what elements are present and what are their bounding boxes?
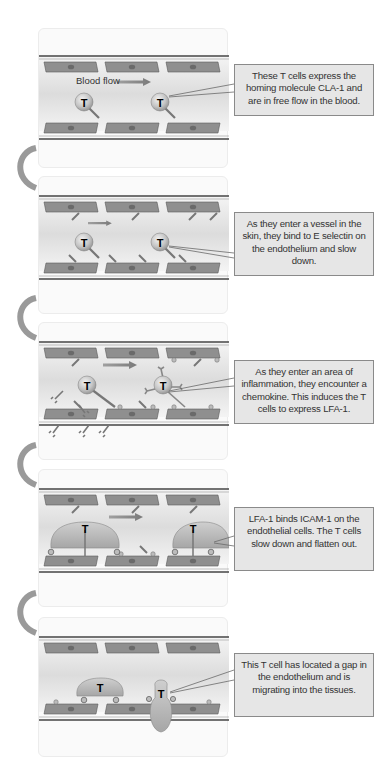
panel-step-4: T T <box>38 469 228 607</box>
svg-text:T: T <box>190 523 197 535</box>
panel-step-2: T T <box>38 176 228 314</box>
svg-text:T: T <box>82 523 89 535</box>
blood-flow-label: Blood flow <box>76 75 120 86</box>
step-arrow-2-3 <box>0 294 40 342</box>
callout-step-2: As they enter a vessel in the skin, they… <box>234 212 374 276</box>
svg-text:T: T <box>97 682 104 694</box>
panel-step-3: T T <box>38 322 228 460</box>
step-arrow-3-4 <box>0 441 40 489</box>
svg-text:T: T <box>81 97 88 109</box>
vessel-diagram-2: T T <box>39 177 229 315</box>
vessel-diagram-3: T T <box>39 323 229 461</box>
vessel-diagram-1: T T <box>39 29 229 169</box>
svg-text:T: T <box>81 237 88 249</box>
vessel-diagram-4: T T <box>39 470 229 608</box>
svg-text:T: T <box>84 380 91 392</box>
svg-text:T: T <box>157 97 164 109</box>
step-arrow-1-2 <box>0 144 40 192</box>
callout-step-4: LFA-1 binds ICAM-1 on the endothelial ce… <box>234 507 374 571</box>
vessel-diagram-5: T T <box>39 618 229 758</box>
svg-text:T: T <box>157 237 164 249</box>
callout-step-5: This T cell has located a gap in the end… <box>234 653 374 717</box>
svg-text:T: T <box>160 380 167 392</box>
step-arrow-4-5 <box>0 589 40 637</box>
panel-step-1: T T Blood flow <box>38 28 228 168</box>
svg-text:T: T <box>158 688 165 700</box>
panel-step-5: T T <box>38 617 228 757</box>
callout-step-3: As they enter an area of inflammation, t… <box>234 360 374 424</box>
callout-step-1: These T cells express the homing molecul… <box>234 64 374 116</box>
